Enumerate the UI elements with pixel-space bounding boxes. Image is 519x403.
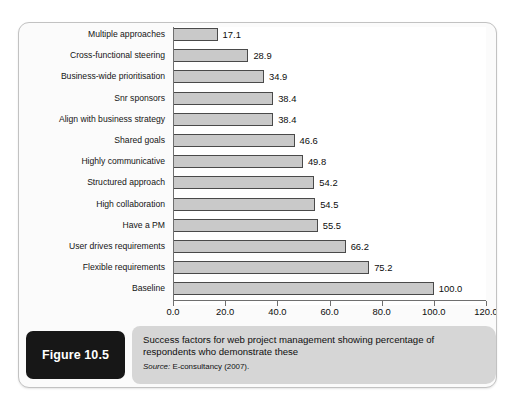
bar-value-label: 46.6 [300,130,318,151]
bar [173,240,346,253]
figure-card: Multiple approaches17.1Cross-functional … [18,22,497,388]
bar-row: User drives requirements66.2 [19,236,496,257]
bar-row: Business-wide prioritisation34.9 [19,66,496,87]
bar-value-label: 66.2 [351,236,369,257]
bar-chart: Multiple approaches17.1Cross-functional … [19,23,496,315]
bar [173,176,314,189]
bar-row: High collaboration54.5 [19,194,496,215]
bar-category-label: Highly communicative [19,151,165,172]
caption-panel: Success factors for web project manageme… [132,326,496,384]
bar-value-label: 34.9 [269,66,287,87]
bar-value-label: 17.1 [223,24,241,45]
x-axis-tick-label: 0.0 [151,306,195,317]
bar-category-label: Shared goals [19,130,165,151]
x-axis-tick-label: 20.0 [203,306,247,317]
bar-value-label: 54.5 [320,194,338,215]
bar [173,198,315,211]
bar-value-label: 28.9 [253,45,271,66]
bar-row: Baseline100.0 [19,278,496,299]
bar-category-label: Flexible requirements [19,257,165,278]
bar [173,261,369,274]
caption-source: Source: E-consultancy (2007). [143,362,486,371]
bar [173,155,303,168]
caption-source-label: Source: [143,362,170,371]
y-axis-line [173,27,174,301]
bar-row: Have a PM55.5 [19,215,496,236]
bar-value-label: 38.4 [278,88,296,109]
bar-category-label: Business-wide prioritisation [19,66,165,87]
bar-row: Structured approach54.2 [19,172,496,193]
bar-category-label: Baseline [19,278,165,299]
bar-row: Snr sponsors38.4 [19,88,496,109]
bar-value-label: 55.5 [323,215,341,236]
bar-value-label: 38.4 [278,109,296,130]
x-axis-tick-label: 60.0 [308,306,352,317]
caption-text: Success factors for web project manageme… [143,334,475,359]
x-axis-tick-label: 120.0 [464,306,497,317]
bar-row: Flexible requirements75.2 [19,257,496,278]
bar-row: Shared goals46.6 [19,130,496,151]
bar [173,28,218,41]
bar-value-label: 100.0 [439,278,462,299]
bar [173,49,248,62]
bar [173,70,264,83]
bar-row: Align with business strategy38.4 [19,109,496,130]
bar-category-label: Align with business strategy [19,109,165,130]
x-axis-tick-label: 80.0 [360,306,404,317]
x-axis-tick-label: 40.0 [255,306,299,317]
bar [173,92,273,105]
bar-value-label: 75.2 [374,257,392,278]
bar [173,113,273,126]
bar-row: Cross-functional steering28.9 [19,45,496,66]
bar-category-label: Multiple approaches [19,24,165,45]
bar-category-label: Have a PM [19,215,165,236]
caption-source-value: E-consultancy (2007). [170,362,249,371]
bar-category-label: Cross-functional steering [19,45,165,66]
figure-number-badge: Figure 10.5 [26,331,125,379]
bar-category-label: Snr sponsors [19,88,165,109]
bar [173,282,434,295]
bar [173,134,295,147]
figure-caption-bar: Figure 10.5 Success factors for web proj… [19,322,496,388]
bar-row: Highly communicative49.8 [19,151,496,172]
bar-value-label: 54.2 [319,172,337,193]
x-axis-tick-label: 100.0 [412,306,456,317]
bar-value-label: 49.8 [308,151,326,172]
bar [173,219,318,232]
bar-category-label: Structured approach [19,172,165,193]
bar-category-label: High collaboration [19,194,165,215]
bar-row: Multiple approaches17.1 [19,24,496,45]
bar-category-label: User drives requirements [19,236,165,257]
bars-layer: Multiple approaches17.1Cross-functional … [19,23,496,315]
